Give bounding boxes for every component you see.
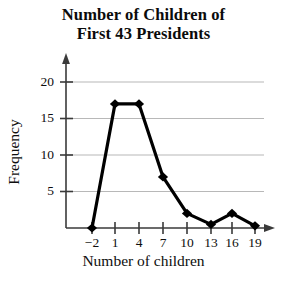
- plot-area: 20 15 10 5 −2 1 4 7 10 13 16 19: [0, 0, 287, 283]
- x-tick-label-4: 4: [136, 236, 143, 250]
- y-tick-label-20: 20: [22, 75, 54, 89]
- x-tick-label-10: 10: [180, 236, 194, 250]
- chart-canvas: [0, 0, 287, 283]
- y-axis-arrow: [62, 53, 70, 64]
- x-axis: [66, 224, 275, 232]
- x-tick-label-19: 19: [248, 236, 262, 250]
- y-axis: [62, 53, 70, 228]
- data-point: [87, 223, 97, 232]
- x-axis-arrow: [264, 224, 275, 232]
- chart-figure: Number of Children of First 43 President…: [0, 0, 287, 283]
- x-tick-label-13: 13: [204, 236, 218, 250]
- x-tick-label-16: 16: [225, 236, 239, 250]
- y-tick-label-15: 15: [22, 111, 54, 125]
- data-point: [134, 99, 144, 108]
- data-series-line: [92, 104, 255, 228]
- x-tick-label--2: −2: [85, 236, 99, 250]
- data-point: [110, 99, 120, 108]
- y-tick-label-5: 5: [22, 184, 54, 198]
- x-axis-label: Number of children: [0, 252, 287, 270]
- x-tick-label-7: 7: [160, 236, 167, 250]
- y-axis-label: Frequency: [5, 119, 23, 184]
- y-tick-label-10: 10: [22, 148, 54, 162]
- x-tick-label-1: 1: [112, 236, 119, 250]
